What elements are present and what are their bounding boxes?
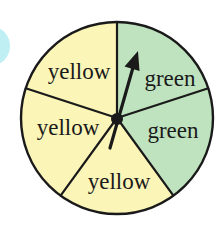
spinner-hub xyxy=(111,113,123,125)
edge-circle-decoration xyxy=(0,26,10,66)
spinner-diagram: yellow green yellow green yellow xyxy=(0,0,224,227)
sector-label: green xyxy=(144,66,196,91)
sector-label: yellow xyxy=(48,59,111,84)
sector-label: green xyxy=(147,118,199,143)
spinner-svg: yellow green yellow green yellow xyxy=(0,0,224,227)
sector-label: yellow xyxy=(37,115,100,140)
sector-label: yellow xyxy=(88,169,151,194)
